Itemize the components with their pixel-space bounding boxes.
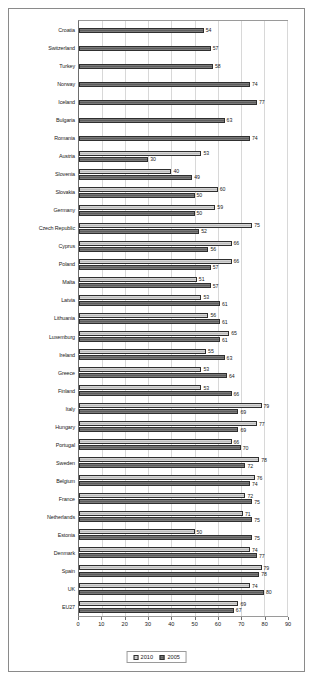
bar-line: 66 [79,241,287,246]
tick-mark [288,617,289,620]
bar-line: 57 [79,46,287,51]
category-label: Italy [66,406,75,412]
category-label: UK [68,586,75,592]
bar-row: Czech Republic7552 [79,219,287,237]
bar-value-label: 54 [206,27,212,33]
bar-2005[interactable] [79,590,264,595]
chart-frame: Croatia54Switzerland57Turkey58Norway74Ic… [8,8,305,672]
category-label: Estonia [58,532,75,538]
bar-2005[interactable] [79,193,195,198]
category-label: Hungary [55,424,75,430]
bar-value-label: 61 [222,319,228,325]
bar-value-label: 79 [264,565,270,571]
bar-line: 60 [79,187,287,192]
bar-line: 66 [79,259,287,264]
bar-2010[interactable] [79,601,238,606]
bar-2005[interactable] [79,391,232,396]
tick-label: 20 [122,621,128,627]
bar-2010[interactable] [79,475,255,480]
bar-2005[interactable] [79,136,250,141]
bar-2010[interactable] [79,421,257,426]
bar-2005[interactable] [79,517,252,522]
bar-2010[interactable] [79,529,195,534]
bar-2005[interactable] [79,211,195,216]
bar-row: Luxemburg6561 [79,328,287,346]
bar-2005[interactable] [79,283,211,288]
bar-2010[interactable] [79,457,259,462]
bar-2005[interactable] [79,46,211,51]
bar-2005[interactable] [79,229,199,234]
bar-value-label: 66 [234,439,240,445]
bar-line: 59 [79,205,287,210]
bar-2010[interactable] [79,565,262,570]
bar-2005[interactable] [79,301,220,306]
bar-line: 51 [79,277,287,282]
bar-2010[interactable] [79,187,218,192]
bar-2010[interactable] [79,169,171,174]
bar-2005[interactable] [79,355,225,360]
bar-2010[interactable] [79,367,201,372]
category-label: Malta [62,279,75,285]
bar-line: 67 [79,608,287,613]
bar-2010[interactable] [79,547,250,552]
bar-2005[interactable] [79,64,213,69]
category-label: Belgium [56,478,75,484]
bar-2005[interactable] [79,82,250,87]
bar-line: 71 [79,511,287,516]
bar-2005[interactable] [79,481,250,486]
bar-line: 74 [79,547,287,552]
gridline [287,21,288,616]
bar-2010[interactable] [79,439,232,444]
legend-item-2005[interactable]: 2005 [160,654,180,660]
bar-2005[interactable] [79,175,192,180]
bar-2005[interactable] [79,553,257,558]
bar-2005[interactable] [79,118,225,123]
bar-2010[interactable] [79,385,201,390]
bar-line: 65 [79,331,287,336]
bar-2010[interactable] [79,151,201,156]
bar-2005[interactable] [79,535,252,540]
bar-2010[interactable] [79,493,245,498]
bar-value-label: 69 [240,601,246,607]
bar-2005[interactable] [79,337,220,342]
bar-line: 56 [79,247,287,252]
category-label: Spain [62,568,75,574]
bar-2005[interactable] [79,572,259,577]
bar-2005[interactable] [79,463,245,468]
bar-2010[interactable] [79,349,206,354]
bar-2010[interactable] [79,241,232,246]
bar-2010[interactable] [79,583,250,588]
bar-line: 53 [79,151,287,156]
bar-2005[interactable] [79,499,252,504]
legend-label: 2005 [168,654,180,660]
bar-2005[interactable] [79,373,227,378]
bar-2010[interactable] [79,295,201,300]
category-label: Cyprus [59,243,75,249]
bar-2005[interactable] [79,157,148,162]
bar-2010[interactable] [79,205,215,210]
bar-2005[interactable] [79,608,234,613]
bar-2010[interactable] [79,259,232,264]
bar-2010[interactable] [79,313,208,318]
bar-2010[interactable] [79,277,197,282]
bar-2005[interactable] [79,247,208,252]
bar-2010[interactable] [79,511,243,516]
bar-2010[interactable] [79,331,229,336]
bar-2005[interactable] [79,319,220,324]
bar-2005[interactable] [79,100,257,105]
bar-line: 50 [79,529,287,534]
bar-line: 53 [79,385,287,390]
bar-2005[interactable] [79,265,211,270]
bar-2010[interactable] [79,223,252,228]
legend-item-2010[interactable]: 2010 [133,654,153,660]
bar-2005[interactable] [79,445,241,450]
bar-line: 77 [79,553,287,558]
bar-2005[interactable] [79,409,238,414]
bar-value-label: 70 [243,445,249,451]
tick-label: 80 [262,621,268,627]
bar-2010[interactable] [79,403,262,408]
bar-line: 79 [79,403,287,408]
bar-2005[interactable] [79,28,204,33]
bar-2005[interactable] [79,427,238,432]
bar-value-label: 53 [203,150,209,156]
